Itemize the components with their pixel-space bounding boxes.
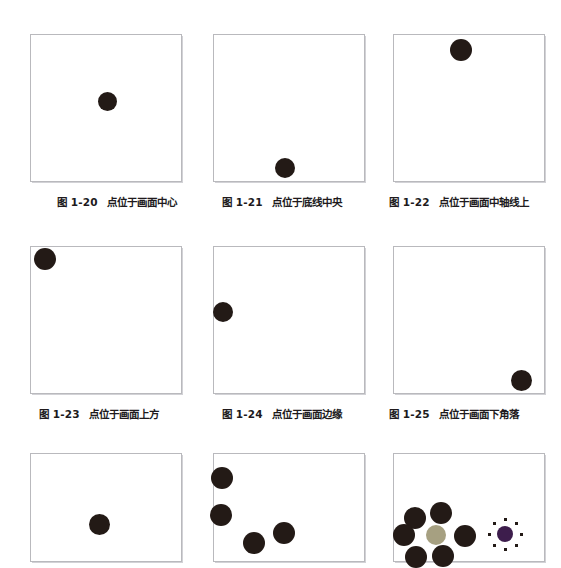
caption-text: 点位于画面中心 — [107, 196, 178, 208]
dot-cluster-3 — [243, 532, 265, 554]
caption-label: 图 1-24 — [222, 408, 263, 420]
caption-text: 点位于画面边缘 — [272, 408, 343, 420]
figure-frame — [30, 246, 182, 394]
rosette-dot-right — [454, 525, 476, 547]
caption-cap-1-23: 图 1-23点位于画面上方 — [39, 406, 159, 421]
figure-fig-1-20 — [30, 34, 182, 182]
caption-cap-1-20: 图 1-20点位于画面中心 — [57, 194, 177, 209]
figure-fig-1-23 — [30, 246, 182, 394]
accent-dot-purple — [497, 526, 513, 542]
spark-nw — [493, 522, 496, 525]
caption-label: 图 1-23 — [39, 408, 80, 420]
caption-text: 点位于画面中轴线上 — [439, 196, 530, 208]
caption-cap-1-21: 图 1-21点位于底线中央 — [222, 194, 342, 209]
dot-left-edge — [213, 302, 233, 322]
figure-fig-row3-left — [30, 453, 182, 562]
rosette-dot-lower-right — [432, 545, 454, 567]
caption-text: 点位于画面下角落 — [439, 408, 520, 420]
caption-label: 图 1-22 — [389, 196, 430, 208]
caption-text: 点位于画面上方 — [89, 408, 160, 420]
figure-fig-row3-middle — [213, 453, 365, 562]
figure-frame — [30, 453, 182, 562]
dot-top-axis — [450, 39, 472, 61]
rosette-dot-left — [393, 524, 415, 546]
caption-cap-1-25: 图 1-25点位于画面下角落 — [389, 406, 519, 421]
caption-label: 图 1-21 — [222, 196, 263, 208]
spark-sw — [493, 544, 496, 547]
rosette-center-dot-tan — [426, 525, 446, 545]
dot-cluster-1 — [211, 467, 233, 489]
dot-center-lower — [89, 514, 110, 535]
dot-center — [98, 92, 117, 111]
figure-fig-1-24 — [213, 246, 365, 394]
caption-label: 图 1-25 — [389, 408, 430, 420]
dot-bottom-right-corner — [511, 370, 532, 391]
spark-s — [504, 548, 507, 551]
rosette-dot-upper-right — [430, 502, 452, 524]
figure-frame — [213, 453, 365, 562]
figure-fig-1-21 — [213, 34, 365, 182]
caption-label: 图 1-20 — [57, 196, 98, 208]
spark-n — [504, 518, 507, 521]
caption-cap-1-22: 图 1-22点位于画面中轴线上 — [389, 194, 529, 209]
spark-e — [520, 533, 523, 536]
figure-fig-1-25 — [393, 246, 545, 394]
spark-se — [515, 544, 518, 547]
dot-cluster-4 — [273, 522, 295, 544]
figure-frame — [213, 246, 365, 394]
dot-cluster-2 — [210, 504, 232, 526]
figure-fig-1-22 — [393, 34, 545, 182]
caption-cap-1-24: 图 1-24点位于画面边缘 — [222, 406, 342, 421]
spark-ne — [515, 522, 518, 525]
dot-bottom-center — [275, 158, 295, 178]
dot-top-left — [34, 248, 56, 270]
spark-w — [488, 533, 491, 536]
caption-text: 点位于底线中央 — [272, 196, 343, 208]
figure-fig-row3-right — [393, 453, 545, 562]
rosette-dot-lower-left — [405, 546, 427, 568]
